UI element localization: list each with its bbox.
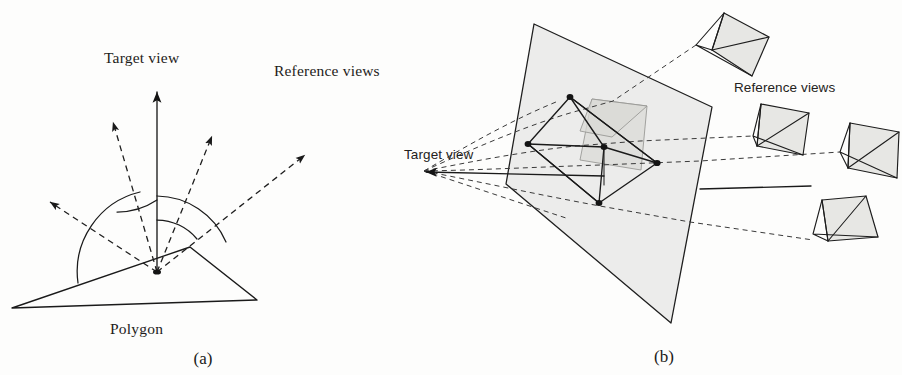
ray-left (113, 122, 157, 272)
object-vertex-bottom (596, 200, 603, 206)
panel-b-caption: (b) (654, 347, 674, 366)
origin-point (153, 269, 161, 274)
panel-b: Target view Reference views (b) (404, 13, 899, 366)
polygon-triangle (12, 247, 257, 308)
arc-middle-right (157, 196, 226, 242)
figure-container: Target view Reference views Polygon (a) (0, 0, 902, 375)
image-plane (506, 24, 712, 323)
panel-a: Target view Reference views Polygon (a) (12, 49, 380, 368)
camera-right (840, 123, 899, 178)
ray-far-left (50, 202, 157, 272)
camera-middle (753, 104, 809, 155)
reference-rays (50, 122, 305, 272)
panel-a-reference-views-label: Reference views (274, 62, 380, 79)
panel-b-target-view-label: Target view (404, 147, 474, 162)
angle-arcs (77, 192, 226, 283)
object-vertex-top (567, 94, 574, 100)
ray-right (157, 136, 212, 272)
object-vertex-center (601, 144, 608, 150)
camera-bottom (813, 196, 878, 241)
panel-a-caption: (a) (194, 349, 213, 368)
ray-far-right (157, 155, 305, 272)
arc-outer-left (77, 192, 140, 283)
panel-a-target-view-label: Target view (104, 49, 180, 66)
figure-canvas: Target view Reference views Polygon (a) (0, 0, 902, 375)
optical-axis-right-segment (700, 186, 811, 189)
panel-a-polygon-label: Polygon (110, 320, 163, 337)
object-vertex-right (653, 160, 660, 166)
camera-top (696, 13, 769, 76)
panel-b-reference-views-label: Reference views (734, 80, 835, 95)
object-vertex-left (525, 141, 532, 147)
